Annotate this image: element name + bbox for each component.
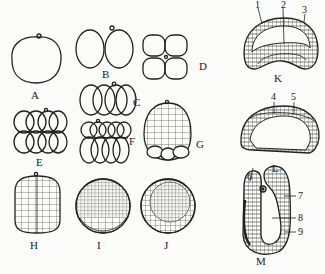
stage-c-eight-cell	[80, 82, 136, 115]
label-b: B	[102, 69, 109, 80]
part-7: 7	[298, 191, 303, 201]
label-g: G	[196, 139, 204, 150]
part-4: 4	[271, 92, 276, 102]
stage-g-morula	[144, 100, 191, 160]
label-a: A	[31, 90, 39, 101]
label-f: F	[129, 136, 135, 147]
stage-e-sixteen-cell	[14, 108, 67, 153]
embryo-development-diagram: A B C D E F G H I J K L M 1 2 3 4 5 6 7 …	[0, 0, 325, 274]
diagram-drawing	[0, 0, 325, 274]
part-2: 2	[281, 0, 286, 10]
stage-a-zygote	[12, 34, 61, 83]
stage-h-early-blastula	[15, 172, 60, 233]
stage-i-blastula	[76, 179, 130, 233]
label-l: L	[272, 163, 279, 174]
part-5: 5	[291, 92, 296, 102]
part-8: 8	[298, 213, 303, 223]
label-i: I	[97, 240, 101, 251]
label-j: J	[164, 240, 168, 251]
label-d: D	[199, 61, 207, 72]
label-m: M	[256, 256, 266, 267]
label-k: K	[274, 73, 282, 84]
stage-l-gastrula	[241, 106, 319, 153]
label-c: C	[133, 97, 140, 108]
stage-b-two-cell	[76, 26, 133, 68]
stage-k-gastrula	[244, 18, 318, 69]
part-3: 3	[302, 5, 307, 15]
part-6: 6	[247, 172, 252, 182]
label-e: E	[36, 157, 43, 168]
label-h: H	[30, 240, 38, 251]
part-1: 1	[255, 0, 260, 10]
stage-d-four-cell	[143, 35, 187, 79]
stage-f-thirty-two-cell	[80, 119, 131, 163]
part-9: 9	[298, 227, 303, 237]
stage-j-late-blastula	[141, 179, 195, 233]
